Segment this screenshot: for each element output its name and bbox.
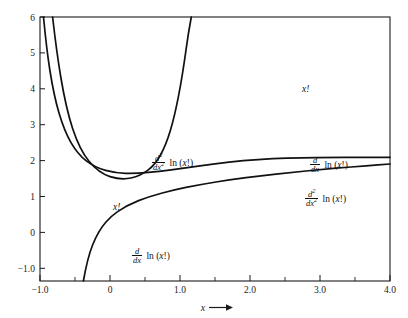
y-axis-ticks xyxy=(40,17,45,268)
y-tick-label: 0 xyxy=(30,228,35,238)
curve-second-derivative xyxy=(44,17,391,173)
label-d2-ln-xfact-right: d2 dx2 ln (x!) xyxy=(305,190,346,209)
plot-frame xyxy=(40,17,390,281)
x-axis-title: x xyxy=(200,302,206,313)
fraction-d2-dx2: d2 dx2 xyxy=(305,190,318,209)
fraction-d-dx: d dx xyxy=(310,156,320,175)
x-axis-ticks-minor xyxy=(75,277,355,281)
label-xfact-left: x! xyxy=(113,203,120,213)
y-tick-label: −1.0 xyxy=(18,264,35,274)
figure-container: 6 5 4 3 2 1 0 −1.0 −1.0 0 1.0 2.0 3.0 4.… xyxy=(0,0,408,318)
x-tick-label: −1.0 xyxy=(31,285,48,295)
label-d2-ln-xfact-left: d2 dx2 ln (x!) xyxy=(152,154,193,173)
x-tick-labels: −1.0 0 1.0 2.0 3.0 4.0 xyxy=(31,285,396,295)
label-d-ln-xfact-right: d dx ln (x!) xyxy=(310,156,348,175)
label-xfact-right: x! xyxy=(302,85,309,95)
label-d-ln-xfact-bottom: d dx ln (x!) xyxy=(132,247,170,266)
y-tick-label: 1 xyxy=(30,192,35,202)
label-text-ln-xfact: ln (x!) xyxy=(323,195,347,205)
x-axis-title-group: x xyxy=(200,302,233,313)
fraction-d-dx: d dx xyxy=(132,247,142,266)
y-tick-label: 6 xyxy=(30,13,35,23)
y-tick-label: 5 xyxy=(30,48,35,58)
y-tick-labels: 6 5 4 3 2 1 0 −1.0 xyxy=(18,13,35,274)
label-text-ln-xfact: ln (x!) xyxy=(146,252,170,262)
y-tick-label: 4 xyxy=(30,84,35,94)
x-tick-label: 2.0 xyxy=(244,285,256,295)
x-axis-arrow-head xyxy=(226,304,233,310)
label-text-ln-xfact: ln (x!) xyxy=(324,161,348,171)
fraction-d2-dx2: d2 dx2 xyxy=(152,154,165,173)
label-text-ln-xfact: ln (x!) xyxy=(170,159,194,169)
x-tick-label: 1.0 xyxy=(174,285,186,295)
x-tick-label: 4.0 xyxy=(384,285,396,295)
y-tick-label: 2 xyxy=(30,156,35,166)
x-tick-label: 3.0 xyxy=(314,285,326,295)
x-tick-label: 0 xyxy=(108,285,113,295)
y-tick-label: 3 xyxy=(30,120,35,130)
curve-first-derivative xyxy=(83,164,390,281)
